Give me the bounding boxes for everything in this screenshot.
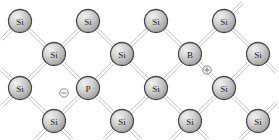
- bond-r3c4-r4c4: [230, 94, 252, 115]
- atom-si-r2c2: Si: [111, 43, 134, 66]
- bond-r3c3-r4c3: [162, 94, 184, 115]
- bond-r1c3-r2c2: [128, 27, 150, 48]
- bond-r1c2-r2c1: [60, 27, 82, 48]
- atom-si-r4c4: Si: [247, 110, 270, 133]
- bond-r1c4-r2c4: [230, 27, 252, 48]
- atom-si-r4c3: Si: [179, 110, 202, 133]
- lattice-canvas: SiSiSiSiSiSiBSiSiPSiSiSiSiSiSi: [0, 0, 279, 140]
- atom-si-r3c1: Si: [9, 77, 32, 100]
- charge-symbol-negative: [60, 89, 68, 97]
- bond-r1c3-r2c3: [162, 27, 184, 48]
- bond-r1c1-r2c1: [26, 27, 48, 48]
- atom-b-acceptor: B: [179, 43, 202, 66]
- atom-si-r4c2: Si: [111, 110, 134, 133]
- atom-p-donor: P: [77, 77, 100, 100]
- atom-layer: SiSiSiSiSiSiBSiSiPSiSiSiSiSiSi: [9, 10, 270, 133]
- bond-r2c1-r3c1: [26, 60, 48, 82]
- atom-si-r2c1: Si: [43, 43, 66, 66]
- charge-symbol-positive: [203, 66, 211, 74]
- bond-r3c4-r4c3: [196, 94, 218, 115]
- bond-r1c2-r2c2: [94, 27, 116, 48]
- atom-si-r1c4: Si: [213, 10, 236, 33]
- silicon-lattice-diagram: SiSiSiSiSiSiBSiSiPSiSiSiSiSiSi: [0, 0, 279, 140]
- atom-si-r3c4: Si: [213, 77, 236, 100]
- bond-r3c3-r4c2: [128, 94, 150, 115]
- bond-r2c2-r3c3: [128, 60, 150, 82]
- atom-si-r1c3: Si: [145, 10, 168, 33]
- atom-si-r2c4: Si: [247, 43, 270, 66]
- bond-r1c4-r2c3: [196, 27, 218, 48]
- bond-r2c3-r3c3: [162, 60, 184, 82]
- atom-si-r3c3: Si: [145, 77, 168, 100]
- bond-r2c1-r3c2: [60, 60, 82, 82]
- bond-r3c1-r4c1: [26, 94, 48, 115]
- atom-si-r1c2: Si: [77, 10, 100, 33]
- atom-si-r4c1: Si: [43, 110, 66, 133]
- atom-si-r1c1: Si: [9, 10, 32, 33]
- bond-r2c2-r3c2: [94, 60, 116, 82]
- bond-r3c2-r4c2: [94, 94, 116, 115]
- bond-r2c4-r3c4: [230, 60, 252, 82]
